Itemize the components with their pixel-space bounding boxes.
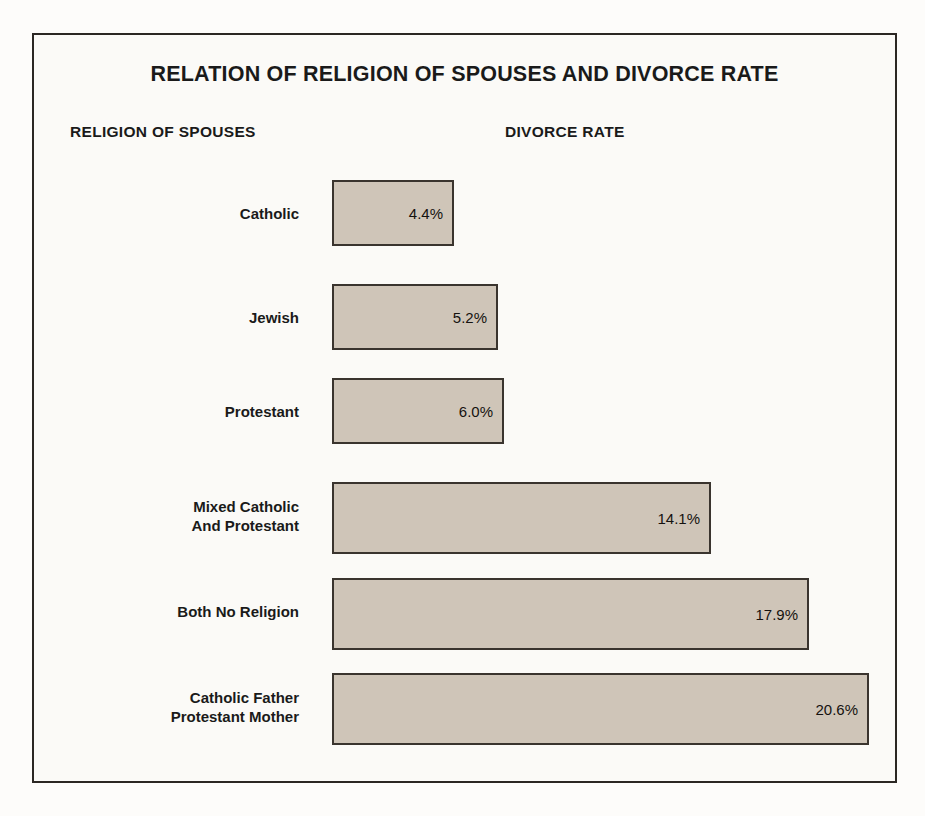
bar-value-label: 20.6%: [815, 701, 858, 718]
chart-page: RELATION OF RELIGION OF SPOUSES AND DIVO…: [0, 0, 925, 816]
bar-category-label: Both No Religion: [177, 602, 299, 621]
bar-chart-plot-area: Catholic4.4%Jewish5.2%Protestant6.0%Mixe…: [34, 35, 895, 781]
bar-shape: 6.0%: [332, 378, 504, 444]
bar-value-label: 14.1%: [657, 510, 700, 527]
bar-shape: 20.6%: [332, 673, 869, 745]
bar-category-label: Protestant: [225, 402, 299, 421]
bar-shape: 14.1%: [332, 482, 711, 554]
chart-frame: RELATION OF RELIGION OF SPOUSES AND DIVO…: [32, 33, 897, 783]
bar-category-label: Catholic: [240, 204, 299, 223]
bar-category-label: Jewish: [249, 308, 299, 327]
bar-value-label: 6.0%: [459, 403, 493, 420]
bar-shape: 17.9%: [332, 578, 809, 650]
bar-value-label: 5.2%: [453, 309, 487, 326]
bar-category-label: Mixed Catholic And Protestant: [191, 497, 299, 535]
bar-value-label: 17.9%: [755, 606, 798, 623]
bar-shape: 5.2%: [332, 284, 498, 350]
bar-value-label: 4.4%: [409, 205, 443, 222]
bar-category-label: Catholic Father Protestant Mother: [171, 688, 299, 726]
bar-shape: 4.4%: [332, 180, 454, 246]
